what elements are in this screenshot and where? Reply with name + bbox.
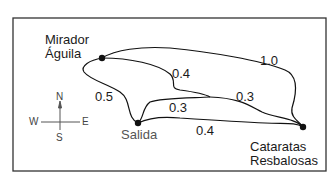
label-cataratas: Cataratas Resbalosas bbox=[250, 140, 318, 168]
location-dot-mirador bbox=[99, 55, 105, 61]
distance-junction-cataratas: 0.3 bbox=[236, 90, 254, 104]
distance-mirador-salida: 0.5 bbox=[95, 90, 113, 104]
compass-w: W bbox=[29, 117, 38, 127]
compass-n: N bbox=[56, 92, 63, 102]
trail-salida-cataratas bbox=[138, 117, 303, 127]
location-dot-cataratas bbox=[300, 124, 306, 130]
distance-mirador-junction: 0.4 bbox=[172, 67, 190, 81]
compass-rose bbox=[41, 101, 80, 130]
distance-salida-cataratas: 0.4 bbox=[196, 124, 214, 138]
distance-salida-junction: 0.3 bbox=[169, 101, 187, 115]
compass-e: E bbox=[82, 117, 89, 127]
location-dot-salida bbox=[135, 120, 141, 126]
label-salida: Salida bbox=[121, 128, 157, 142]
label-mirador: Mirador Águila bbox=[45, 33, 89, 61]
distance-mirador-cataratas: 1.0 bbox=[260, 54, 278, 68]
compass-s: S bbox=[56, 133, 63, 143]
